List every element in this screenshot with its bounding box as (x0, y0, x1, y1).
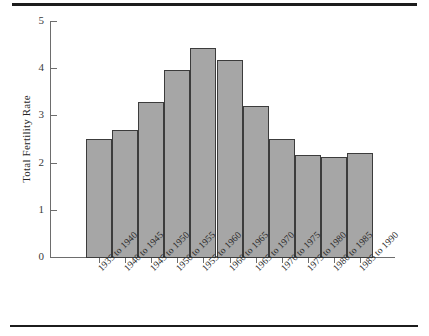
bar-series (50, 21, 395, 258)
bar (190, 48, 216, 258)
bar (164, 70, 190, 258)
y-axis-tick-label-text: 0 (26, 251, 44, 262)
y-axis-title: Total Fertility Rate (20, 69, 32, 209)
bar (217, 60, 243, 258)
chart-page: 012345 Total Fertility Rate 1935 to 1940… (0, 0, 429, 336)
bar (86, 139, 112, 258)
bar-chart-plot: 012345 Total Fertility Rate 1935 to 1940… (0, 0, 429, 336)
y-axis-tick-label: 5 (26, 15, 44, 27)
y-axis-tick-label-text: 5 (26, 15, 44, 26)
y-axis-tick-label: 0 (26, 251, 44, 263)
